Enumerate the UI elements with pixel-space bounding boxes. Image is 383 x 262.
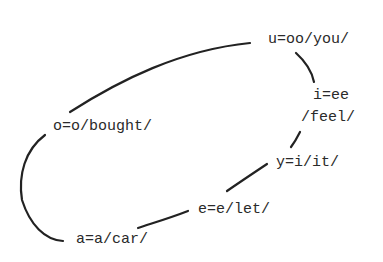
edge-o-u	[70, 43, 250, 112]
node-i-label-line1: i=ee	[313, 88, 349, 103]
node-a-label: a=a/car/	[76, 232, 148, 247]
edge-y-e	[227, 164, 267, 191]
edge-a-o	[21, 135, 63, 241]
edge-i-y	[291, 132, 300, 147]
node-y-label: y=i/it/	[276, 155, 339, 170]
node-e-label: e=e/let/	[198, 202, 270, 217]
edge-e-a	[138, 211, 188, 228]
node-o-label: o=o/bought/	[53, 119, 152, 134]
node-u-label: u=oo/you/	[268, 32, 349, 47]
node-i-label-line2: /feel/	[301, 110, 355, 125]
edge-u-i	[296, 53, 314, 82]
